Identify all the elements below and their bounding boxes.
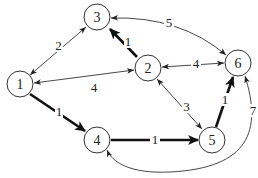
edge-weight-label: 1: [56, 104, 63, 119]
edge-weight-label: 4: [91, 80, 98, 95]
edge-2-3: 1: [110, 29, 137, 57]
edge-weight-label: 7: [250, 103, 257, 118]
node-6: 6: [225, 50, 251, 76]
edge-4-5: 1: [111, 132, 198, 147]
edge-2-6: 4: [162, 56, 224, 71]
node-label: 5: [209, 133, 216, 148]
edge-weight-label: 4: [193, 56, 200, 71]
node-label: 4: [94, 133, 101, 148]
edge-1-2: 4: [34, 70, 134, 95]
edge-weight-label: 1: [222, 92, 229, 107]
edge-2-5: 3: [157, 79, 202, 129]
edge-1-4: 1: [30, 94, 85, 131]
edge-weight-label: 5: [166, 15, 173, 30]
edge-1-3: 2: [30, 27, 86, 75]
edge-weight-label: 3: [183, 99, 190, 114]
node-label: 2: [145, 61, 152, 76]
node-4: 4: [84, 127, 110, 153]
node-5: 5: [199, 127, 225, 153]
node-3: 3: [84, 4, 110, 30]
edge-weight-label: 2: [55, 38, 62, 53]
edge-weight-label: 1: [152, 132, 159, 147]
node-label: 6: [235, 56, 242, 71]
node-2: 2: [135, 55, 161, 81]
edge-5-6: 1: [216, 77, 233, 127]
edge-weight-label: 1: [125, 34, 132, 49]
graph-diagram: 2 4 1 5 4 3 1 1: [0, 0, 258, 178]
node-label: 1: [17, 77, 24, 92]
edge-6-4: 7: [107, 76, 258, 172]
node-label: 3: [94, 10, 101, 25]
node-1: 1: [7, 71, 33, 97]
